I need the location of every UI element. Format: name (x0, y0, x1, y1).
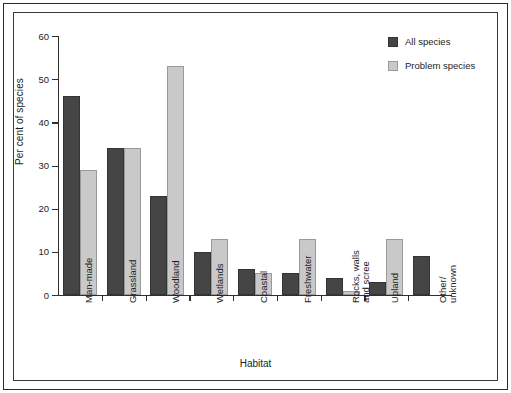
x-axis-category-label: Other/ unknown (438, 265, 458, 303)
legend-item-all-species: All species (388, 36, 475, 47)
y-axis-tick-label: 60 (38, 32, 49, 42)
y-axis-tick: 40 (52, 122, 58, 123)
x-axis-category-label: Man-made (84, 258, 94, 303)
x-axis-tick (408, 296, 409, 301)
y-axis-tick-label: 0 (44, 291, 49, 301)
y-axis-tick: 60 (52, 36, 58, 37)
x-axis-category-label: Grassland (128, 260, 138, 303)
x-axis-tick (102, 296, 103, 301)
y-axis-tick-label: 30 (38, 161, 49, 171)
x-axis-tick (277, 296, 278, 301)
x-axis-category-label: Coastal (259, 271, 269, 303)
x-axis-tick (189, 296, 190, 301)
y-axis-tick: 50 (52, 79, 58, 80)
y-axis-tick: 10 (52, 252, 58, 253)
x-axis-tick (146, 296, 147, 301)
chart-legend: All species Problem species (388, 36, 475, 84)
legend-label-problem-species: Problem species (405, 60, 475, 71)
y-axis-tick: 0 (52, 295, 58, 296)
legend-label-all-species: All species (405, 36, 450, 47)
y-axis-tick-label: 20 (38, 205, 49, 215)
x-axis-category-label: Wetlands (215, 264, 225, 303)
legend-item-problem-species: Problem species (388, 60, 475, 71)
dark-grey-swatch-icon (388, 37, 398, 47)
x-axis-category-label: Upland (390, 273, 400, 303)
x-axis-category-label: Rocks, walls and scree (351, 250, 371, 303)
y-axis-tick-label: 50 (38, 75, 49, 85)
y-axis-tick-label: 10 (38, 248, 49, 258)
x-axis-tick (233, 296, 234, 301)
chart-figure: 0102030405060 Man-madeGrasslandWoodlandW… (0, 0, 511, 393)
x-axis-category-label: Woodland (171, 260, 181, 303)
y-axis-tick-label: 40 (38, 118, 49, 128)
y-axis-tick: 30 (52, 166, 58, 167)
x-axis-category-label: Freshwater (303, 255, 313, 303)
y-axis-tick: 20 (52, 209, 58, 210)
x-axis-tick (321, 296, 322, 301)
light-grey-swatch-icon (388, 61, 398, 71)
y-axis-line (58, 36, 59, 295)
y-axis-title: Per cent of species (14, 78, 25, 165)
